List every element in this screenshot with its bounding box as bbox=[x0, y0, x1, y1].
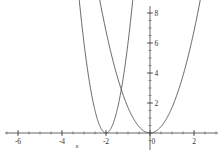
y-axis-tick-label: 2 bbox=[155, 99, 159, 108]
y-axis-tick-label: 8 bbox=[155, 9, 159, 18]
curve-group bbox=[79, 0, 201, 133]
x-axis-tick-labels: -6-4-202 bbox=[15, 137, 196, 146]
plot-svg: -6-4-202 2468 x bbox=[0, 0, 223, 156]
graph-plot-area: -6-4-202 2468 x bbox=[0, 0, 223, 156]
x-axis-tick-label: 0 bbox=[152, 137, 156, 146]
curve-narrow-parabola-vertex-minus-two bbox=[79, 0, 133, 133]
y-axis-tick-label: 4 bbox=[155, 69, 159, 78]
x-axis-tick-label: 2 bbox=[192, 137, 196, 146]
x-axis-tick-label: -4 bbox=[59, 137, 65, 146]
x-axis-label: x bbox=[75, 142, 79, 149]
x-axis-tick-label: -2 bbox=[103, 137, 109, 146]
y-axis-tick-labels: 2468 bbox=[155, 9, 159, 108]
x-axis-tick-label: -6 bbox=[15, 137, 21, 146]
y-axis-tick-label: 6 bbox=[155, 39, 159, 48]
